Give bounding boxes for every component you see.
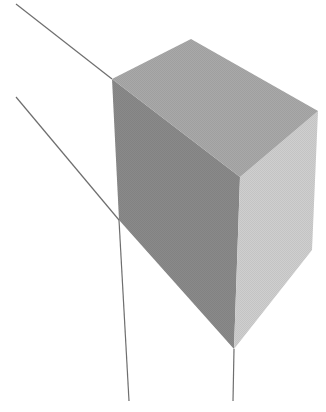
- lower-guide-line: [16, 97, 119, 220]
- cuboid-diagram: [0, 0, 326, 412]
- left-vertical-line: [119, 220, 129, 401]
- front-vertical-line: [233, 349, 234, 401]
- upper-guide-line: [16, 4, 112, 79]
- texture-overlay: [112, 39, 318, 349]
- diagram-canvas: [0, 0, 326, 412]
